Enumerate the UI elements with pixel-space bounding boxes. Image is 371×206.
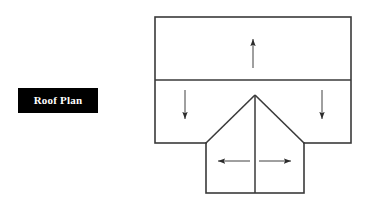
roof-plan-drawing bbox=[0, 0, 371, 206]
roof-plan-canvas: Roof Plan bbox=[0, 0, 371, 206]
